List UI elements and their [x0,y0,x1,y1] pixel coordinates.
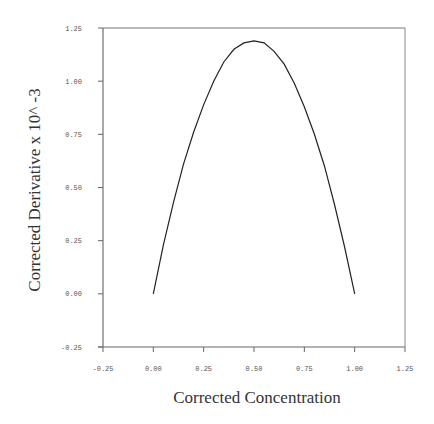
y-tick-label: 0.50 [65,184,82,192]
x-ticks: -0.250.000.250.500.751.001.25 [92,347,413,373]
y-tick-label: -0.25 [61,344,82,352]
data-line [153,41,354,294]
y-tick-label: 0.75 [65,131,82,139]
y-tick-label: 0.00 [65,290,82,298]
chart: -0.250.000.250.500.751.001.25 -0.250.000… [0,0,434,424]
x-tick-label: 0.00 [145,365,162,373]
y-ticks: -0.250.000.250.500.751.001.25 [61,25,103,352]
x-axis-title: Corrected Concentration [173,388,341,407]
x-tick-label: -0.25 [92,365,113,373]
x-tick-label: 1.25 [397,365,414,373]
plot-frame [98,28,405,347]
x-tick-label: 1.00 [346,365,363,373]
y-axis-title: Corrected Derivative x 10^ -3 [25,88,44,291]
x-tick-label: 0.75 [296,365,313,373]
y-tick-label: 1.00 [65,78,82,86]
y-tick-label: 0.25 [65,237,82,245]
x-tick-label: 0.25 [195,365,212,373]
x-tick-label: 0.50 [246,365,263,373]
y-tick-label: 1.25 [65,25,82,33]
